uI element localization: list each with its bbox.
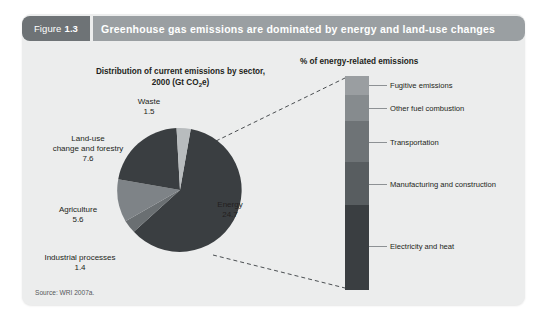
- figure-number-badge: Figure 1.3: [22, 16, 90, 41]
- figure-header: Figure 1.3 Greenhouse gas emissions are …: [22, 16, 525, 41]
- pie-label-waste-value: 1.5: [124, 107, 174, 117]
- bar-segment-transportation[interactable]: [345, 121, 369, 162]
- pie-label-waste-name: Waste: [124, 97, 174, 107]
- figure-root: Figure 1.3 Greenhouse gas emissions are …: [0, 0, 550, 329]
- bar-segment-electricity-and-heat[interactable]: [345, 205, 369, 290]
- legend-label-fugitive-emissions: Fugitive emissions: [390, 82, 452, 90]
- pie-chart-title-line1: Distribution of current emissions by sec…: [58, 66, 303, 77]
- pie-label-land-use-value: 7.6: [33, 154, 143, 164]
- legend-label-electricity-and-heat: Electricity and heat: [390, 243, 454, 251]
- bar-segment-fugitive-emissions[interactable]: [345, 76, 369, 95]
- legend-tick-other-fuel-combustion: [369, 108, 387, 109]
- pie-label-industrial-processes: Industrial processes 1.4: [27, 253, 133, 273]
- pie-label-agriculture: Agriculture 5.6: [42, 205, 114, 225]
- pie-chart-title-line2: 2000 (Gt CO2e): [58, 77, 303, 88]
- legend-tick-transportation: [369, 142, 387, 143]
- pie-chart-title: Distribution of current emissions by sec…: [58, 66, 303, 88]
- pie-label-energy-name: Energy: [205, 200, 255, 210]
- pie-label-industrial-processes-name: Industrial processes: [27, 253, 133, 263]
- bar-chart-title: % of energy-related emissions: [300, 57, 418, 66]
- header-divider: [90, 16, 93, 41]
- bar-segment-manufacturing-and-construction[interactable]: [345, 162, 369, 205]
- bar-segment-other-fuel-combustion[interactable]: [345, 95, 369, 121]
- source-note-text: Source: WRI 2007a.: [35, 289, 94, 296]
- pie-label-industrial-processes-value: 1.4: [27, 263, 133, 273]
- legend-label-transportation: Transportation: [390, 139, 439, 147]
- legend-label-manufacturing-and-construction: Manufacturing and construction: [390, 181, 496, 189]
- pie-label-energy: Energy 24.7: [205, 200, 255, 220]
- legend-tick-fugitive-emissions: [369, 85, 387, 86]
- pie-label-energy-value: 24.7: [205, 210, 255, 220]
- pie-label-land-use: Land-use change and forestry 7.6: [33, 134, 143, 165]
- stacked-bar-chart: [345, 76, 369, 290]
- pie-label-agriculture-name: Agriculture: [42, 205, 114, 215]
- figure-label: Figure: [34, 23, 62, 34]
- pie-label-land-use-name-1: Land-use: [33, 134, 143, 144]
- legend-label-other-fuel-combustion: Other fuel combustion: [390, 105, 464, 113]
- legend-tick-manufacturing-and-construction: [369, 184, 387, 185]
- legend-tick-electricity-and-heat: [369, 246, 387, 247]
- pie-label-agriculture-value: 5.6: [42, 215, 114, 225]
- figure-title: Greenhouse gas emissions are dominated b…: [101, 16, 519, 41]
- figure-number: 1.3: [65, 23, 79, 34]
- pie-label-land-use-name-2: change and forestry: [33, 144, 143, 154]
- pie-label-waste: Waste 1.5: [124, 97, 174, 117]
- source-note: Source: WRI 2007a.: [35, 289, 94, 296]
